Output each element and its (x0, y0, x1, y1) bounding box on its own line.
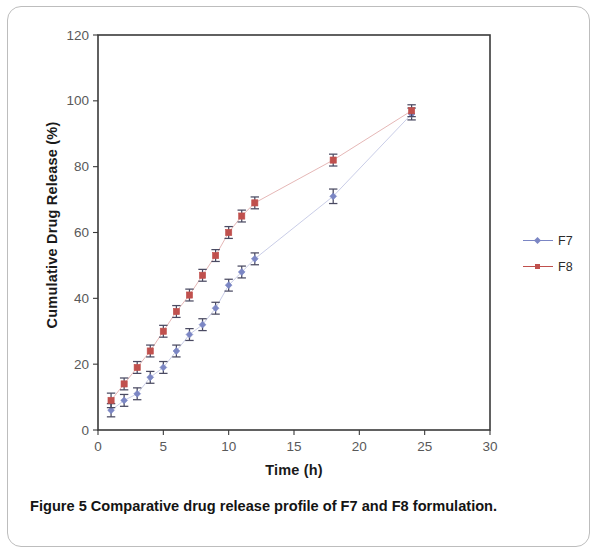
chart-plot-container: 020406080100120051015202530 Cumulative D… (0, 0, 540, 492)
figure-region: 020406080100120051015202530 Cumulative D… (0, 0, 595, 554)
legend-item-f8: F8 (523, 254, 589, 280)
svg-text:80: 80 (74, 159, 89, 174)
svg-text:60: 60 (74, 225, 89, 240)
legend-label-f8: F8 (558, 260, 573, 274)
drug-release-line-chart: 020406080100120051015202530 (0, 0, 540, 492)
chart-legend: F7 F8 (523, 228, 589, 280)
legend-label-f7: F7 (558, 234, 573, 248)
y-axis-title: Cumulative Drug Release (%) (44, 60, 60, 390)
legend-swatch-f8-icon (523, 261, 553, 273)
svg-text:0: 0 (94, 439, 102, 454)
legend-item-f7: F7 (523, 228, 589, 254)
svg-text:5: 5 (160, 439, 168, 454)
legend-swatch-f7-icon (523, 235, 553, 247)
svg-text:30: 30 (482, 439, 497, 454)
figure-caption-text: Figure 5 Comparative drug release profil… (30, 498, 497, 514)
x-axis-title: Time (h) (98, 462, 490, 478)
figure-caption: Figure 5 Comparative drug release profil… (30, 496, 550, 517)
svg-text:25: 25 (417, 439, 432, 454)
svg-text:0: 0 (81, 423, 89, 438)
svg-text:15: 15 (286, 439, 301, 454)
svg-text:10: 10 (221, 439, 236, 454)
svg-text:40: 40 (74, 291, 89, 306)
svg-text:120: 120 (66, 28, 89, 43)
svg-text:20: 20 (74, 357, 89, 372)
svg-text:20: 20 (352, 439, 367, 454)
svg-text:100: 100 (66, 93, 89, 108)
